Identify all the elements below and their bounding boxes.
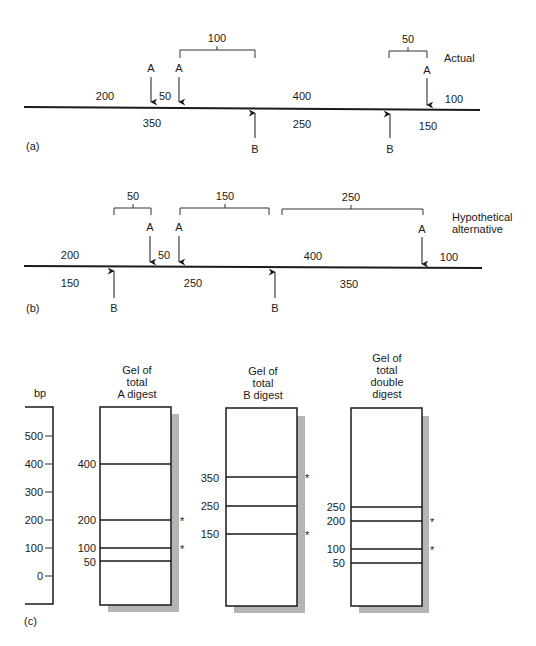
fragment-size: 100 bbox=[440, 251, 458, 263]
scale-tick: 400 bbox=[25, 458, 53, 470]
fragment-size: 150 bbox=[419, 120, 437, 132]
svg-text:A: A bbox=[418, 223, 426, 235]
panel-tag: (a) bbox=[26, 140, 39, 152]
bp-scale: bp 500 400 300 200 100 0 bbox=[25, 387, 53, 604]
scale-tick: 300 bbox=[25, 486, 53, 498]
gel-title: double bbox=[370, 376, 403, 388]
site-b-arrow: B bbox=[110, 271, 117, 314]
fragment-size: 250 bbox=[293, 118, 311, 130]
gel-title: total bbox=[253, 377, 274, 389]
svg-text:350: 350 bbox=[201, 472, 219, 484]
svg-text:A: A bbox=[146, 221, 154, 233]
star-marker: * bbox=[180, 515, 185, 527]
star-marker: * bbox=[305, 472, 310, 484]
svg-text:B: B bbox=[271, 302, 278, 314]
svg-text:A: A bbox=[423, 64, 431, 76]
svg-text:200: 200 bbox=[78, 514, 96, 526]
site-a-arrow: A bbox=[147, 62, 155, 102]
bracket-250: 250 bbox=[282, 191, 423, 215]
fragment-size: 350 bbox=[340, 278, 358, 290]
gel-title: B digest bbox=[243, 389, 283, 401]
fragment-size: 400 bbox=[304, 250, 322, 262]
gel-title: Gel of bbox=[122, 364, 152, 376]
panel-c: bp 500 400 300 200 100 0 Gel of total A … bbox=[24, 352, 435, 627]
fragment-size: 150 bbox=[61, 277, 79, 289]
scale-tick: 100 bbox=[25, 542, 53, 554]
fragment-size: 50 bbox=[159, 90, 171, 102]
svg-text:200: 200 bbox=[327, 515, 345, 527]
svg-text:100: 100 bbox=[78, 542, 96, 554]
bracket-100: 100 bbox=[180, 32, 255, 58]
bracket-150: 150 bbox=[180, 190, 269, 215]
star-marker: * bbox=[305, 529, 310, 541]
site-a-arrow: A bbox=[418, 223, 426, 264]
bracket-50: 50 bbox=[114, 190, 151, 215]
svg-text:500: 500 bbox=[25, 430, 43, 442]
bracket-label: 50 bbox=[127, 190, 139, 202]
svg-text:0: 0 bbox=[37, 570, 43, 582]
star-marker: * bbox=[180, 543, 185, 555]
svg-text:300: 300 bbox=[25, 486, 43, 498]
site-a-arrow: A bbox=[423, 64, 431, 105]
site-b-arrow: B bbox=[251, 113, 258, 155]
panel-tag: (c) bbox=[24, 615, 37, 627]
gel-title: Gel of bbox=[372, 352, 402, 364]
scale-tick: 200 bbox=[25, 514, 53, 526]
svg-text:400: 400 bbox=[25, 458, 43, 470]
svg-text:A: A bbox=[175, 221, 183, 233]
svg-text:B: B bbox=[386, 143, 393, 155]
fragment-size: 50 bbox=[158, 249, 170, 261]
fragment-size: 350 bbox=[143, 117, 161, 129]
svg-text:A: A bbox=[147, 62, 155, 74]
bracket-label: 150 bbox=[216, 190, 234, 202]
panel-tag: (b) bbox=[26, 302, 39, 314]
panel-a: 100 50 Actual A A A B B bbox=[24, 32, 480, 155]
panel-title: Hypothetical bbox=[452, 211, 513, 223]
star-marker: * bbox=[430, 544, 435, 556]
gel-lane bbox=[100, 407, 171, 605]
svg-text:A: A bbox=[175, 62, 183, 74]
fragment-size: 200 bbox=[61, 249, 79, 261]
gel-title: digest bbox=[372, 388, 401, 400]
bracket-label: 250 bbox=[342, 191, 360, 203]
svg-text:200: 200 bbox=[25, 514, 43, 526]
site-a-arrow: A bbox=[175, 221, 183, 262]
panel-title: Actual bbox=[444, 52, 475, 64]
fragment-size: 250 bbox=[184, 277, 202, 289]
dna-strand-actual bbox=[24, 107, 480, 110]
bracket-label: 50 bbox=[402, 33, 414, 45]
dna-strand-hypothetical bbox=[24, 266, 482, 268]
scale-tick: 500 bbox=[25, 430, 53, 442]
fragment-size: 200 bbox=[96, 90, 114, 102]
fragment-size: 400 bbox=[293, 90, 311, 102]
site-a-arrow: A bbox=[146, 221, 154, 262]
scale-tick: 0 bbox=[37, 570, 53, 582]
gel-title: A digest bbox=[117, 388, 156, 400]
svg-text:400: 400 bbox=[78, 458, 96, 470]
site-a-arrow: A bbox=[175, 62, 183, 102]
scale-unit: bp bbox=[34, 387, 46, 399]
gel-a-digest: Gel of total A digest 400 200 100 50 * * bbox=[78, 364, 185, 612]
svg-text:B: B bbox=[110, 302, 117, 314]
svg-text:50: 50 bbox=[333, 557, 345, 569]
gel-lane bbox=[226, 408, 297, 606]
panel-b: 50 150 250 Hypothetical alternative A A … bbox=[24, 190, 513, 314]
gel-title: Gel of bbox=[248, 365, 278, 377]
gel-b-digest: Gel of total B digest 350 250 150 * * bbox=[201, 365, 310, 613]
svg-text:50: 50 bbox=[84, 556, 96, 568]
fragment-size: 100 bbox=[445, 93, 463, 105]
site-b-arrow: B bbox=[271, 272, 278, 314]
gel-double-digest: Gel of total double digest 250 200 100 5… bbox=[327, 352, 435, 613]
bracket-label: 100 bbox=[208, 32, 226, 44]
gel-title: total bbox=[377, 364, 398, 376]
bracket-50: 50 bbox=[389, 33, 427, 58]
svg-text:250: 250 bbox=[327, 501, 345, 513]
svg-text:B: B bbox=[251, 143, 258, 155]
svg-text:100: 100 bbox=[327, 543, 345, 555]
svg-text:150: 150 bbox=[201, 528, 219, 540]
site-b-arrow: B bbox=[386, 114, 393, 155]
gel-title: total bbox=[127, 376, 148, 388]
panel-title: alternative bbox=[452, 223, 503, 235]
svg-text:100: 100 bbox=[25, 542, 43, 554]
star-marker: * bbox=[430, 516, 435, 528]
